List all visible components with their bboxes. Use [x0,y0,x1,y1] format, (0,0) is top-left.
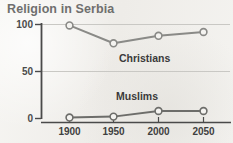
x-tick-label-2000: 2000 [147,126,170,137]
y-tick-label-0: 0 [27,113,33,124]
series-line [70,25,204,43]
series-label-christians: Christians [119,52,171,64]
data-point-marker [66,22,73,29]
x-tick-label-1950: 1950 [102,126,125,137]
data-point-marker [155,32,162,39]
chart-figure: Religion in Serbia 100 50 0 1900 [0,0,233,143]
data-point-marker [110,40,117,47]
data-point-marker [66,114,73,121]
data-point-marker [200,108,207,115]
y-tick-label-100: 100 [16,19,33,30]
data-point-marker [200,29,207,36]
series-christians [66,22,207,47]
data-point-marker [110,113,117,120]
series-label-muslims: Muslims [116,90,158,102]
line-chart-plot: 100 50 0 1900 1950 2000 2050 Christians … [0,0,233,143]
x-tick-label-1900: 1900 [58,126,81,137]
y-tick-label-50: 50 [22,66,34,77]
data-point-marker [155,108,162,115]
series-line [70,111,204,118]
series-muslims [66,108,207,121]
y-axis-ticks [35,25,41,119]
x-tick-label-2050: 2050 [192,126,215,137]
